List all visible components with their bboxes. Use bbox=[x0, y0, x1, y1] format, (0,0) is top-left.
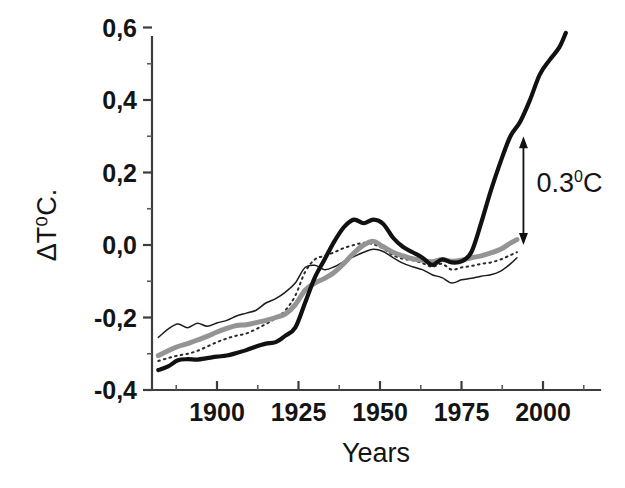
y-tick-label: 0,2 bbox=[102, 159, 137, 187]
x-tick-label: 1975 bbox=[434, 398, 490, 426]
series-line-thick-gray bbox=[158, 240, 517, 356]
annotation-label-suffix: C bbox=[583, 168, 603, 198]
y-axis-title: ΔT⁰C. bbox=[32, 189, 62, 262]
annotation-label-value: 0.3 bbox=[536, 168, 574, 198]
x-tick-label: 1950 bbox=[352, 398, 408, 426]
y-tick-label: 0,0 bbox=[102, 231, 137, 259]
annotation-label-superscript: 0 bbox=[574, 168, 583, 185]
annotation-arrowhead-bottom bbox=[519, 233, 528, 245]
y-tick-label: 0,4 bbox=[102, 86, 137, 114]
x-tick-label: 2000 bbox=[515, 398, 571, 426]
x-axis-tick-labels: 19001925195019752000 bbox=[189, 398, 571, 426]
temperature-anomaly-chart: -0,4-0,20,00,20,40,6 1900192519501975200… bbox=[0, 0, 625, 488]
annotation-delta-bracket: 0.30C bbox=[519, 136, 602, 245]
y-tick-label: -0,2 bbox=[94, 304, 137, 332]
y-tick-label: -0,4 bbox=[94, 376, 137, 404]
y-axis-tick-labels: -0,4-0,20,00,20,40,6 bbox=[94, 14, 137, 405]
x-axis-title: Years bbox=[342, 438, 410, 468]
series-line-thick-black bbox=[158, 33, 566, 370]
y-tick-label: 0,6 bbox=[102, 14, 137, 42]
annotation-arrowhead-top bbox=[519, 136, 528, 148]
x-axis-ticks bbox=[176, 381, 584, 390]
x-tick-label: 1925 bbox=[271, 398, 327, 426]
annotation-label: 0.30C bbox=[536, 168, 602, 198]
data-series bbox=[158, 33, 566, 370]
y-axis-ticks bbox=[143, 28, 152, 391]
x-tick-label: 1900 bbox=[189, 398, 245, 426]
chart-figure: -0,4-0,20,00,20,40,6 1900192519501975200… bbox=[0, 0, 625, 488]
